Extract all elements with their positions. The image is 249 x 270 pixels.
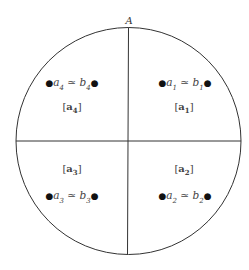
relation-q4: ●a4 ≃ b4●: [45, 76, 98, 91]
class-label-q1: [a1]: [174, 101, 193, 115]
point-b1-icon: ●: [204, 78, 212, 88]
class-label-q4: [a4]: [62, 101, 81, 115]
class-label-q3: [a3]: [62, 163, 81, 177]
point-a3-icon: ●: [45, 191, 53, 201]
point-a4-icon: ●: [45, 78, 53, 88]
point-b4-icon: ●: [91, 78, 99, 88]
class-label-q2: [a2]: [174, 163, 193, 177]
relation-q3: ●a3 ≃ b3●: [45, 189, 98, 204]
set-label: A: [125, 15, 132, 26]
point-b2-icon: ●: [204, 191, 212, 201]
relation-q2: ●a2 ≃ b2●: [158, 189, 211, 204]
point-b3-icon: ●: [91, 191, 99, 201]
relation-q1: ●a1 ≃ b1●: [158, 76, 211, 91]
point-a1-icon: ●: [158, 78, 166, 88]
point-a2-icon: ●: [158, 191, 166, 201]
partition-diagram: [0, 0, 249, 270]
